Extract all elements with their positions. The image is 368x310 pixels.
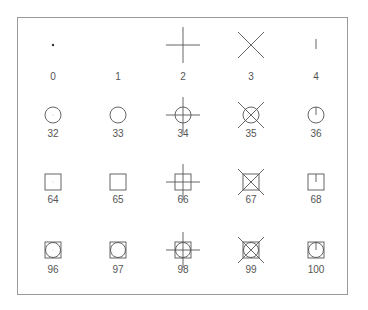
symbol-code-label: 100 xyxy=(296,264,336,276)
symbol-invisible-point-icon xyxy=(88,15,148,75)
symbol-code-label: 1 xyxy=(98,71,138,83)
symbol-code-label: 66 xyxy=(163,194,203,206)
symbol-code-label: 99 xyxy=(231,264,271,276)
symbol-code-label: 2 xyxy=(163,71,203,83)
symbol-code-label: 35 xyxy=(231,128,271,140)
symbol-cross-icon xyxy=(221,15,281,75)
symbol-code-label: 4 xyxy=(296,71,336,83)
symbol-code-label: 0 xyxy=(33,71,73,83)
symbol-code-label: 65 xyxy=(98,194,138,206)
symbol-code-label: 68 xyxy=(296,194,336,206)
symbol-code-label: 36 xyxy=(296,128,336,140)
symbol-code-label: 96 xyxy=(33,264,73,276)
symbol-code-label: 64 xyxy=(33,194,73,206)
symbol-code-label: 34 xyxy=(163,128,203,140)
symbol-tick-icon xyxy=(286,15,346,75)
symbol-code-label: 33 xyxy=(98,128,138,140)
symbol-code-label: 98 xyxy=(163,264,203,276)
symbol-code-label: 3 xyxy=(231,71,271,83)
symbol-code-label: 67 xyxy=(231,194,271,206)
symbol-plus-icon xyxy=(153,15,213,75)
symbol-code-label: 32 xyxy=(33,128,73,140)
symbol-dot-icon xyxy=(23,15,83,75)
symbol-code-label: 97 xyxy=(98,264,138,276)
